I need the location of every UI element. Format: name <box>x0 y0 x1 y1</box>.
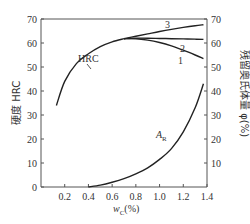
y-right-tick-label: 40 <box>211 86 221 97</box>
x-tick-label: 0.4 <box>82 191 95 202</box>
curve-3-label: 3 <box>165 19 170 30</box>
series-ar-line <box>88 84 203 187</box>
y-left-tick-label: 20 <box>27 134 37 145</box>
y-left-label: 硬度 HRC <box>10 81 22 125</box>
y-right-label: 残留奥氏体量 φ(%) <box>239 50 250 137</box>
y-right-tick-label: 20 <box>211 134 221 145</box>
series-hrc-line <box>56 39 124 106</box>
x-tick-label: 0.8 <box>130 191 143 202</box>
series-3-line <box>124 25 203 39</box>
y-right-tick-label: 50 <box>211 62 221 73</box>
y-left-tick-label: 0 <box>32 182 37 193</box>
y-left-tick-label: 10 <box>27 158 37 169</box>
curve-1-label: 1 <box>178 55 183 66</box>
chart: 0.20.40.60.81.01.21.40102030405060701020… <box>0 0 250 224</box>
ar-label: AR <box>155 129 167 143</box>
hrc-leader <box>87 64 91 69</box>
curve-2-label: 2 <box>180 43 185 54</box>
y-left-tick-label: 70 <box>27 14 37 25</box>
x-axis-label: wC(%) <box>113 203 139 217</box>
series-1-line <box>124 39 203 59</box>
tick-labels: 0.20.40.60.81.01.21.40102030405060701020… <box>27 14 221 203</box>
y-right-tick-label: 70 <box>211 14 221 25</box>
y-right-tick-label: 30 <box>211 110 221 121</box>
x-tick-label: 0.2 <box>58 191 71 202</box>
x-tick-label: 1.2 <box>177 191 190 202</box>
x-tick-label: 0.6 <box>106 191 119 202</box>
y-left-tick-label: 30 <box>27 110 37 121</box>
y-right-tick-label: 60 <box>211 38 221 49</box>
y-left-tick-label: 50 <box>27 62 37 73</box>
hrc-label: HRC <box>78 53 99 64</box>
y-left-tick-label: 60 <box>27 38 37 49</box>
x-tick-label: 1.4 <box>201 191 214 202</box>
x-tick-label: 1.0 <box>153 191 166 202</box>
y-left-tick-label: 40 <box>27 86 37 97</box>
y-right-tick-label: 10 <box>211 158 221 169</box>
